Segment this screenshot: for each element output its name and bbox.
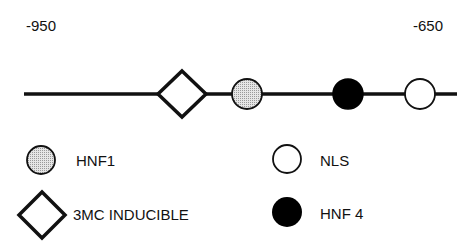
legend-hnf1-icon (27, 146, 55, 174)
promoter-diagram (0, 0, 472, 249)
legend-inducible-label: 3MC INDUCIBLE (73, 206, 189, 223)
legend-nls-label: NLS (320, 152, 349, 169)
legend-hnf4-icon (272, 197, 302, 227)
hnf1-site (232, 79, 262, 109)
legend-inducible-icon (19, 192, 65, 238)
3mc-inducible-element (158, 71, 206, 117)
legend-nls-icon (273, 145, 301, 173)
hnf4-site (333, 79, 363, 109)
nls-site (405, 79, 435, 109)
legend-hnf4-label: HNF 4 (320, 205, 363, 222)
legend-hnf1-label: HNF1 (76, 152, 115, 169)
